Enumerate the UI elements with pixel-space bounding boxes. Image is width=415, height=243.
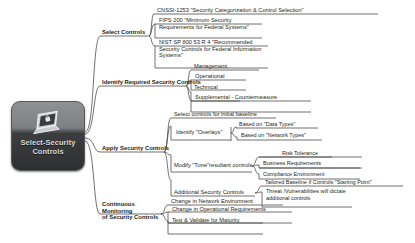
branch-apply-security-controls[interactable]: Apply Security Controls <box>100 145 171 153</box>
node-risk-tolerance[interactable]: Risk Tolerance <box>280 150 320 158</box>
node-supplemental-countermeasure[interactable]: Supplemental - Countermeasure <box>193 94 279 102</box>
node-additional-security-controls[interactable]: Additional Security Controls <box>172 189 246 197</box>
laptop-lock-icon <box>28 109 68 137</box>
node-business-requirements[interactable]: Business Requirements <box>261 160 323 168</box>
node-nist-sp-800-53[interactable]: NIST SP 800 53 R 4 "Recommended Security… <box>157 39 272 60</box>
branch-continuous-monitoring[interactable]: Continuous Monitoring of Security Contro… <box>100 201 162 222</box>
node-tailored-baseline[interactable]: Tailored Baseline if Controls "Starting … <box>263 179 374 187</box>
node-test-validate-maturity[interactable]: Test & Validate for Maturity <box>170 217 242 225</box>
node-change-network-environment[interactable]: Change in Network Environment <box>169 198 255 206</box>
node-technical[interactable]: Technical <box>192 84 220 92</box>
link-center-to-identify-required <box>85 86 182 134</box>
mind-map-canvas: Select-Security Controls Select Controls… <box>0 0 415 243</box>
branch-identify-required-security-controls[interactable]: Identify Required Security Controls <box>100 79 203 87</box>
center-node-select-security-controls[interactable]: Select-Security Controls <box>11 101 85 171</box>
node-compliance-environment[interactable]: Compliance Environment <box>261 171 326 179</box>
node-based-on-data-types[interactable]: Based on "Data Types" <box>237 121 297 129</box>
node-modify-tune-resultant-controls[interactable]: Modify "Tune"resultant controls <box>172 162 254 170</box>
node-select-controls-initial-baseline[interactable]: Select controls for initial baseline <box>172 111 259 119</box>
node-fips-200[interactable]: FIPS 200 "Minimum Security Requirements … <box>157 17 267 31</box>
node-based-on-network-types[interactable]: Based on "Network Types" <box>239 132 308 140</box>
node-management[interactable]: Management <box>192 63 229 71</box>
node-operational[interactable]: Operational <box>193 73 226 81</box>
branch-select-controls[interactable]: Select Controls <box>100 29 147 37</box>
node-change-operational-requirements[interactable]: Change in Operational Requirements <box>170 206 268 214</box>
node-cnssi-1253[interactable]: CNSSI-1253 "Security Categorization & Co… <box>155 7 306 15</box>
node-identify-overlays[interactable]: Identify "Overlays" <box>174 129 224 137</box>
center-node-label: Select-Security Controls <box>21 139 76 156</box>
node-threat-vulnerabilities[interactable]: Threat /Vulnerabilities will dictate add… <box>264 188 354 202</box>
